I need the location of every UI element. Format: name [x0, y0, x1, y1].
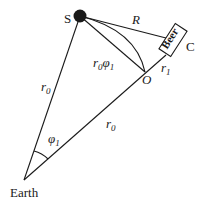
label-r0-left: r0	[41, 80, 51, 96]
label-r1: r1	[161, 61, 171, 77]
source-dot	[74, 10, 87, 23]
label-r: R	[132, 13, 140, 26]
label-earth: Earth	[10, 186, 38, 199]
label-s: S	[64, 12, 71, 25]
label-phi1: φ1	[48, 132, 60, 148]
label-c: C	[186, 40, 195, 53]
label-r0-bottom: r0	[106, 117, 116, 133]
label-o: O	[142, 73, 151, 86]
diagram: S R Beer C r0φ1 O r1 r0 r0 φ1 Earth	[0, 0, 204, 203]
label-r0phi1: r0φ1	[93, 56, 114, 72]
angle-arc	[34, 151, 48, 159]
